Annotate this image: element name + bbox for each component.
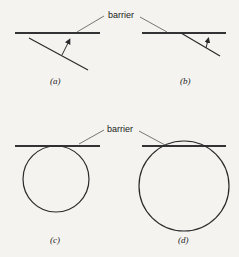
panel-d: (d) — [139, 141, 229, 245]
arrow-icon-a — [62, 41, 69, 55]
caption-b: (b) — [180, 76, 191, 86]
panel-b: (b) — [142, 33, 226, 86]
slanted-line-b — [181, 33, 220, 56]
circle-d — [139, 141, 229, 231]
barrier-label-top: barrier — [108, 10, 134, 20]
barrier-label-bottom: barrier — [107, 124, 133, 134]
slanted-line-a — [29, 38, 88, 70]
barrier-leader-b — [140, 17, 167, 32]
barrier-leader-c — [79, 130, 104, 144]
caption-d: (d) — [178, 235, 189, 245]
panel-c: (c) — [15, 146, 100, 245]
circle-c — [23, 146, 89, 212]
caption-a: (a) — [50, 76, 61, 86]
arrow-icon-b — [206, 40, 208, 48]
barrier-leader-d — [139, 131, 165, 145]
barrier-leader-a — [77, 16, 104, 32]
caption-c: (c) — [50, 235, 60, 245]
diagram-canvas: barrier (a) (b) barrier (c) (d) — [0, 0, 239, 257]
panel-a: (a) — [15, 33, 100, 86]
